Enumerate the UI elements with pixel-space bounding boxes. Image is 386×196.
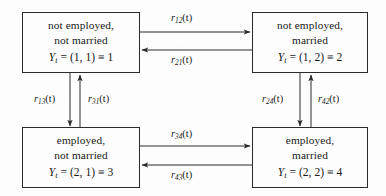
edge-label-r21: r21(t) bbox=[171, 54, 192, 67]
diagram-canvas: not employed, not married Yt = (1, 1) ≡ … bbox=[0, 0, 386, 196]
edge-label-r24-rest: (t) bbox=[273, 93, 283, 104]
state-node-2[interactable]: not employed, married Yt = (1, 2) ≡ 2 bbox=[252, 12, 368, 73]
state-node-1[interactable]: not employed, not married Yt = (1, 1) ≡ … bbox=[22, 12, 140, 73]
edge-label-r43: r43(t) bbox=[171, 169, 192, 182]
edge-label-r31: r31(t) bbox=[88, 93, 109, 106]
state-2-line-2: married bbox=[292, 33, 328, 47]
edge-label-r42: r42(t) bbox=[318, 93, 339, 106]
edge-label-r12: r12(t) bbox=[171, 12, 192, 25]
state-3-math-rest: = (2, 1) ≡ 3 bbox=[58, 166, 114, 179]
edge-label-r43-rest: (t) bbox=[182, 169, 192, 180]
edge-label-r24: r24(t) bbox=[262, 93, 283, 106]
state-2-math: Yt = (1, 2) ≡ 2 bbox=[278, 51, 342, 67]
state-3-line-1: employed, bbox=[57, 133, 105, 147]
state-node-4[interactable]: employed, married Yt = (2, 2) ≡ 4 bbox=[252, 127, 368, 188]
edge-label-r34: r34(t) bbox=[171, 128, 192, 141]
state-4-math-rest: = (2, 2) ≡ 4 bbox=[287, 166, 343, 179]
edge-label-r34-rest: (t) bbox=[182, 128, 192, 139]
state-1-line-2: not married bbox=[54, 33, 108, 47]
edge-label-r42-rest: (t) bbox=[329, 93, 339, 104]
edge-label-r12-rest: (t) bbox=[182, 12, 192, 23]
state-1-math-rest: = (1, 1) ≡ 1 bbox=[58, 51, 114, 64]
state-2-math-rest: = (1, 2) ≡ 2 bbox=[287, 51, 343, 64]
state-node-3[interactable]: employed, not married Yt = (2, 1) ≡ 3 bbox=[22, 127, 140, 188]
state-4-math: Yt = (2, 2) ≡ 4 bbox=[278, 166, 342, 182]
state-1-line-1: not employed, bbox=[48, 18, 114, 32]
state-2-line-1: not employed, bbox=[277, 18, 343, 32]
state-4-line-2: married bbox=[292, 148, 328, 162]
state-3-line-2: not married bbox=[54, 148, 108, 162]
edge-label-r13-rest: (t) bbox=[45, 93, 55, 104]
state-3-math: Yt = (2, 1) ≡ 3 bbox=[49, 166, 113, 182]
state-4-line-1: employed, bbox=[286, 133, 334, 147]
edge-label-r13: r13(t) bbox=[34, 93, 55, 106]
edge-label-r21-rest: (t) bbox=[182, 54, 192, 65]
state-1-math: Yt = (1, 1) ≡ 1 bbox=[49, 51, 113, 67]
edge-label-r31-rest: (t) bbox=[99, 93, 109, 104]
